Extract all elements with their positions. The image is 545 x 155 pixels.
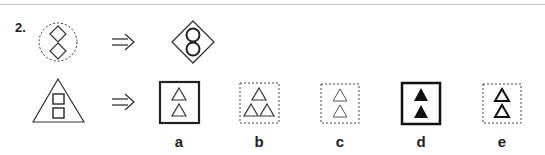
prompt-figure: [33, 79, 84, 122]
option-b-figure[interactable]: [240, 83, 279, 123]
option-b-label[interactable]: b: [249, 133, 269, 150]
source-figure: [39, 23, 77, 61]
implies-arrow-icon: [112, 34, 134, 50]
option-e-label[interactable]: e: [492, 133, 512, 150]
option-c-figure[interactable]: [321, 84, 359, 123]
figure-canvas: [0, 0, 545, 155]
result-figure: [172, 21, 214, 63]
option-a-label[interactable]: a: [169, 133, 189, 150]
option-c-label[interactable]: c: [330, 133, 350, 150]
option-e-figure[interactable]: [483, 84, 521, 123]
option-d-label[interactable]: d: [411, 133, 431, 150]
option-d-figure[interactable]: [402, 83, 440, 124]
implies-arrow-icon: [112, 94, 134, 110]
option-a-figure[interactable]: [160, 82, 199, 123]
